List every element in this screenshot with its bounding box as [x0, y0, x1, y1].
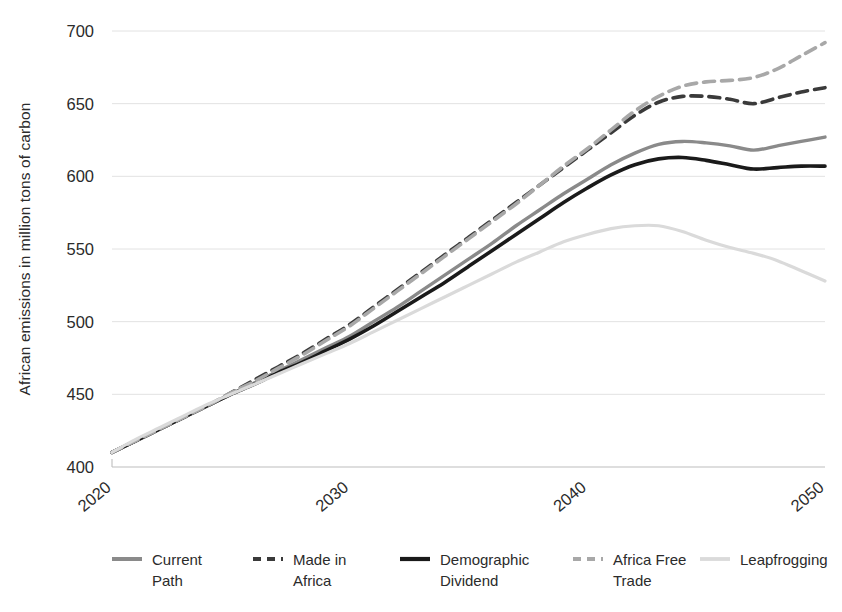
emissions-line-chart: 400450500550600650700 2020203020402050 A… [0, 0, 842, 612]
x-tick-label: 2050 [787, 478, 827, 515]
y-axis-tick-labels: 400450500550600650700 [66, 22, 94, 476]
x-tick-label: 2040 [550, 478, 590, 515]
chart-legend: CurrentPathMade inAfricaDemographicDivid… [112, 551, 828, 589]
legend-label[interactable]: Leapfrogging [740, 551, 828, 568]
y-axis-title: African emissions in million tons of car… [16, 103, 33, 396]
y-tick-label: 650 [66, 95, 94, 113]
gridlines [112, 31, 825, 394]
y-tick-label: 600 [66, 167, 94, 185]
legend-label-line2[interactable]: Path [152, 572, 183, 589]
legend-label[interactable]: Made in [293, 551, 346, 568]
legend-label[interactable]: Africa Free [613, 551, 686, 568]
legend-label[interactable]: Demographic [440, 551, 530, 568]
legend-label-line2[interactable]: Africa [293, 572, 332, 589]
series-line-current-path [112, 137, 825, 452]
y-tick-label: 450 [66, 385, 94, 403]
legend-label-line2[interactable]: Dividend [440, 572, 498, 589]
legend-label[interactable]: Current [152, 551, 203, 568]
y-tick-label: 550 [66, 240, 94, 258]
y-tick-label: 400 [66, 458, 94, 476]
y-tick-label: 700 [66, 22, 94, 40]
y-axis-title-text: African emissions in million tons of car… [16, 103, 33, 396]
axis-lines [112, 459, 825, 467]
y-tick-label: 500 [66, 313, 94, 331]
x-tick-label: 2030 [312, 478, 352, 515]
x-axis-tick-labels: 2020203020402050 [74, 478, 827, 515]
x-tick-label: 2020 [74, 478, 114, 515]
chart-canvas: 400450500550600650700 2020203020402050 A… [0, 0, 842, 612]
legend-label-line2[interactable]: Trade [613, 572, 652, 589]
series-line-demographic-dividend [112, 157, 825, 452]
